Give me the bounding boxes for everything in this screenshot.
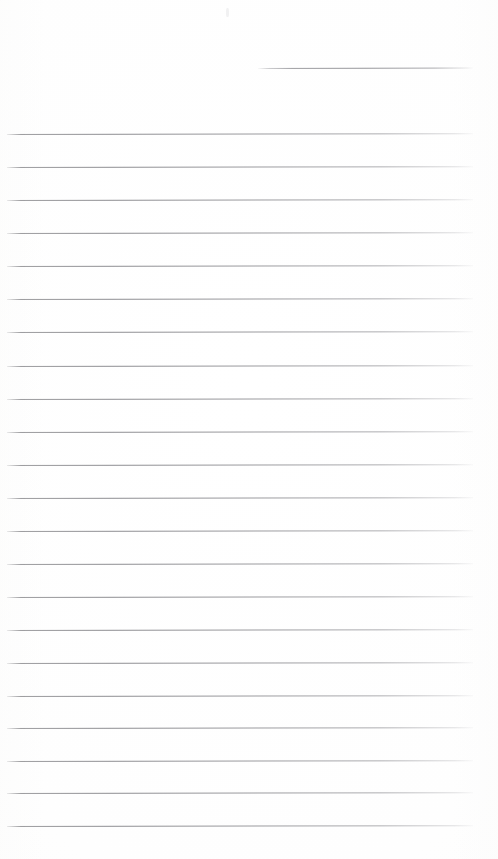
body-rule-20	[7, 760, 473, 762]
body-rule-3	[7, 199, 473, 201]
body-rule-10	[7, 431, 473, 433]
body-rule-18	[7, 695, 473, 697]
body-rule-9	[7, 398, 473, 400]
body-rule-7	[7, 331, 473, 333]
body-rule-12	[7, 497, 473, 499]
body-rule-15	[7, 596, 473, 598]
body-rule-16	[7, 629, 473, 631]
body-rule-17	[7, 662, 473, 664]
body-rule-1	[7, 133, 473, 135]
body-rule-4	[7, 232, 473, 234]
body-rule-5	[7, 265, 473, 267]
scanned-page	[0, 0, 498, 859]
body-rule-14	[7, 563, 473, 565]
body-rule-6	[7, 298, 473, 300]
body-rule-21	[7, 792, 473, 794]
body-rule-19	[7, 727, 473, 729]
body-rule-11	[7, 464, 473, 466]
ruled-lines-layer	[0, 0, 498, 859]
body-rule-13	[7, 530, 473, 532]
body-rule-8	[7, 365, 473, 367]
heading-rule	[258, 68, 473, 69]
body-rule-22	[7, 825, 473, 827]
body-rule-2	[7, 166, 473, 168]
